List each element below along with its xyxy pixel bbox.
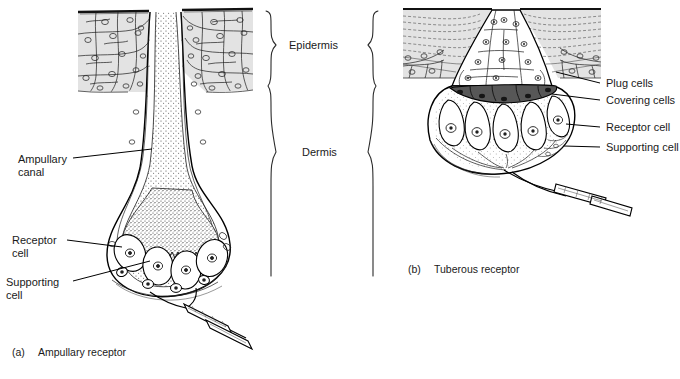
label-receptor-cell-a-line1: Receptor xyxy=(12,234,57,246)
caption-a-marker: (a) xyxy=(12,346,25,358)
caption-b-text: Tuberous receptor xyxy=(434,263,520,275)
ampullary-receptor-diagram: Ampullary canal Receptor cell Supporting… xyxy=(6,9,253,358)
label-ampullary-canal-line1: Ampullary xyxy=(18,153,67,165)
bracket-label-dermis: Dermis xyxy=(302,146,337,158)
bracket-label-epidermis: Epidermis xyxy=(289,39,338,51)
tuberous-receptor-diagram: Plug cells Covering cells Receptor cell … xyxy=(403,9,679,275)
bracket-right-column xyxy=(368,11,378,276)
label-supporting-cell-a-line2: cell xyxy=(6,289,23,301)
label-ampullary-canal-line2: canal xyxy=(18,166,44,178)
figure-canvas: Ampullary canal Receptor cell Supporting… xyxy=(0,0,680,379)
label-plug-cells: Plug cells xyxy=(606,77,654,89)
label-receptor-cell-b: Receptor cell xyxy=(606,121,670,133)
afferent-nerve-tuberous xyxy=(504,170,632,216)
label-receptor-cell-a-line2: cell xyxy=(12,247,29,259)
label-supporting-cell-a-line1: Supporting xyxy=(6,276,59,288)
label-supporting-cell-b: Supporting cell xyxy=(606,141,679,153)
caption-b-marker: (b) xyxy=(408,263,421,275)
skin-layer-brackets: Epidermis Dermis xyxy=(266,11,378,276)
bracket-left-column xyxy=(266,11,276,276)
label-covering-cells: Covering cells xyxy=(606,94,676,106)
caption-a-text: Ampullary receptor xyxy=(38,346,127,358)
tuberous-organ-body xyxy=(428,85,575,177)
